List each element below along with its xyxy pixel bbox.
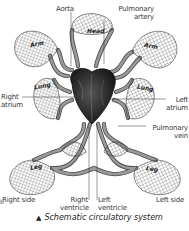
triangle-marker-icon: ▲ [36, 214, 41, 222]
label-right-atrium: Right atrium [1, 93, 23, 109]
label-left-side: Left side [148, 196, 184, 204]
heart [71, 68, 116, 124]
label-aorta: Aorta [56, 5, 74, 13]
label-pulmonary-artery: Pulmonary artery [114, 5, 154, 21]
organ-label-head: Head [87, 27, 104, 34]
label-left-ventricle: Left ventricle [98, 196, 127, 212]
caption-text: Schematic circulatory system [44, 213, 163, 222]
label-right-ventricle: Right ventricle [60, 196, 88, 212]
label-pulmonary-vein: Pulmonary vein [148, 124, 188, 140]
figure-letter: b [0, 198, 4, 205]
figure-caption: ▲Schematic circulatory system [36, 213, 163, 223]
label-right-side: Right side [2, 196, 35, 204]
label-left-atrium: Left atrium [160, 96, 188, 112]
